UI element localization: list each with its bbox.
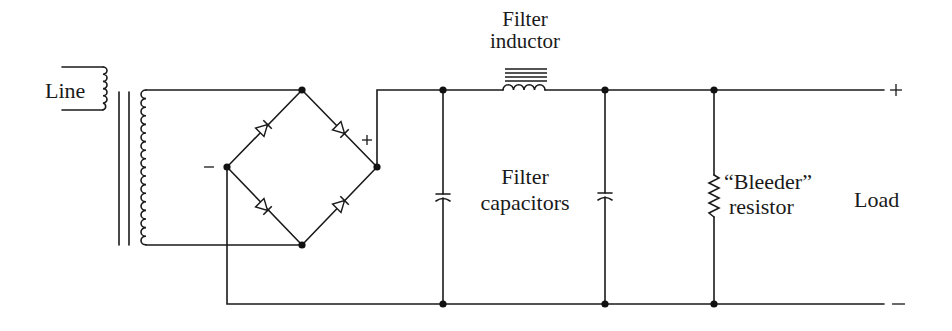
bleeder-label-line2: resistor: [729, 196, 812, 218]
diode-icon: [256, 199, 272, 215]
filter-inductor-label-line1: Filter: [470, 9, 580, 30]
output-plus-icon: [890, 84, 902, 96]
filter-capacitors-label-line2: capacitors: [460, 192, 590, 214]
bridge-plus-icon: [362, 135, 372, 145]
filter-inductor-label-line2: inductor: [470, 31, 580, 52]
filter-capacitor-2: [598, 86, 612, 307]
bleeder-label-line1: “Bleeder”: [724, 171, 812, 193]
filter-capacitor-1: [436, 86, 450, 307]
filter-capacitors-label-line1: Filter: [460, 166, 590, 188]
filter-inductor-label: Filter inductor: [470, 9, 580, 52]
positive-rail: [377, 90, 884, 167]
line-label: Line: [45, 80, 85, 102]
diode-bridge: [223, 86, 380, 248]
bleeder-resistor: [709, 86, 719, 307]
filter-capacitors-label: Filter capacitors: [460, 166, 590, 214]
load-label: Load: [854, 189, 899, 211]
transformer-core: [119, 92, 129, 245]
bleeder-resistor-label: “Bleeder” resistor: [724, 171, 812, 218]
secondary-winding: [141, 90, 302, 245]
filter-inductor: [503, 69, 547, 90]
